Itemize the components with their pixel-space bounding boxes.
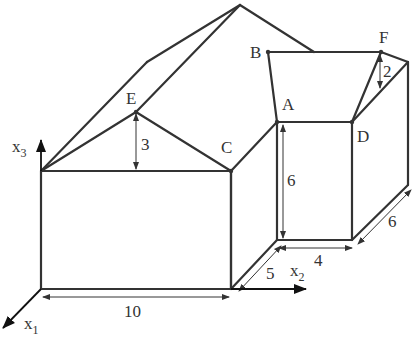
svg-text:6: 6	[287, 171, 296, 190]
dim-front-width: 10	[43, 297, 229, 321]
svg-text:10: 10	[124, 302, 141, 321]
label-A: A	[282, 95, 295, 114]
axis-x1: x1	[3, 289, 41, 337]
label-D: D	[357, 127, 369, 146]
roof	[41, 5, 314, 289]
dim-gable-height: 3	[136, 114, 150, 169]
svg-text:4: 4	[314, 251, 323, 270]
svg-text:2: 2	[383, 62, 392, 81]
label-B: B	[250, 43, 261, 62]
vertex-dots	[134, 50, 383, 173]
dim-box-depth: 6	[358, 190, 411, 244]
dim-side-depth: 5	[239, 246, 281, 291]
label-F: F	[379, 28, 388, 47]
building-diagram: E C A B F D 3 2 6 4 6 5 10 x3	[0, 0, 413, 345]
svg-text:x1: x1	[24, 314, 39, 337]
svg-text:5: 5	[266, 264, 275, 283]
svg-text:3: 3	[141, 135, 150, 154]
front-face	[41, 171, 231, 289]
dim-box-height: 6	[283, 125, 296, 238]
svg-text:x3: x3	[12, 137, 27, 160]
label-C: C	[221, 138, 232, 157]
axis-x3: x3	[12, 137, 41, 171]
svg-text:6: 6	[388, 212, 397, 231]
svg-text:x2: x2	[290, 261, 305, 284]
label-E: E	[126, 89, 136, 108]
